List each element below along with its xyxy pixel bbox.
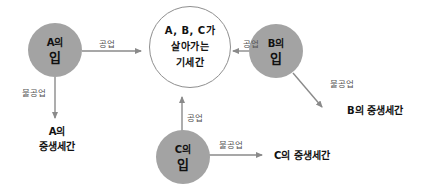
shared-world-line-1: A, B, C가 <box>165 23 215 39</box>
node-c: C의 입 <box>156 130 210 184</box>
shared-world-line-2: 살아가는 <box>171 39 209 55</box>
shared-world-node: A, B, C가 살아가는 기세간 <box>149 6 231 88</box>
node-b-title: B의 <box>268 36 285 51</box>
result-a-line-2: 중생세간 <box>35 139 79 154</box>
node-c-sub: 입 <box>177 157 189 172</box>
node-b-sub: 입 <box>270 51 282 66</box>
edge-label-b-unshared: 불공업 <box>330 77 354 89</box>
edge-label-c-shared: 공업 <box>187 111 203 123</box>
result-a-line-1: A의 <box>35 124 79 139</box>
arrow-b-unshared <box>293 73 322 107</box>
node-c-title: C의 <box>175 142 191 157</box>
karma-world-diagram: A, B, C가 살아가는 기세간 A의 입 B의 입 C의 입 공업 불공업 … <box>0 0 436 194</box>
node-b: B의 입 <box>249 24 303 78</box>
result-c: C의 중생세간 <box>274 148 330 163</box>
node-a-title: A의 <box>47 35 64 50</box>
shared-world-line-3: 기세간 <box>176 55 205 71</box>
edge-label-a-shared: 공업 <box>99 37 115 49</box>
edge-label-c-unshared: 불공업 <box>219 138 243 150</box>
edge-label-a-unshared: 불공업 <box>22 86 46 98</box>
result-b: B의 중생세간 <box>347 103 403 118</box>
node-a: A의 입 <box>28 23 82 77</box>
edge-label-b-shared: 공업 <box>243 37 259 49</box>
node-a-sub: 입 <box>49 50 61 65</box>
result-a: A의 중생세간 <box>35 124 79 154</box>
